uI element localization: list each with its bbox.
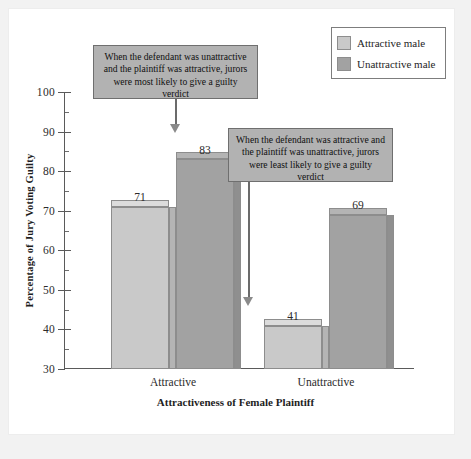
bar-unattractive-attractive-male <box>264 326 322 370</box>
bar-front-face <box>264 326 322 370</box>
bar-side-face <box>387 215 394 369</box>
callout-arrow-stem <box>248 182 250 297</box>
y-tick-80 <box>58 171 65 172</box>
y-tick-inner-70 <box>65 211 71 212</box>
y-tick-inner-50 <box>65 290 71 291</box>
legend-swatch-icon-attractive-male <box>337 36 351 50</box>
y-tick-50 <box>58 290 65 291</box>
callout-box-1: When the defendant was unattractive and … <box>93 45 258 99</box>
legend-swatch-icon-unattractive-male <box>337 57 351 71</box>
bar-value-69: 69 <box>352 199 364 211</box>
legend-label-attractive-male: Attractive male <box>357 37 425 49</box>
y-tick-inner-100 <box>65 92 71 93</box>
bar-unattractive-unattractive-male <box>329 215 387 369</box>
y-tick-inner-60 <box>65 250 71 251</box>
y-tick-label-40: 40 <box>43 323 55 335</box>
y-tick-minor-95 <box>65 112 69 113</box>
bar-front-face <box>176 159 234 369</box>
y-tick-minor-75 <box>65 191 69 192</box>
legend: Attractive male Unattractive male <box>331 27 446 79</box>
chart-figure: Percentage of Jury Voting Guilty 100 90 … <box>0 0 471 459</box>
bar-value-41: 41 <box>287 310 299 322</box>
y-tick-minor-55 <box>65 270 69 271</box>
callout-arrow-2 <box>243 182 254 306</box>
y-tick-label-100: 100 <box>37 86 55 98</box>
y-axis-label-text: Percentage of Jury Voting Guilty <box>25 154 36 308</box>
y-tick-90 <box>58 132 65 133</box>
y-tick-minor-45 <box>65 310 69 311</box>
y-tick-minor-85 <box>65 151 69 152</box>
y-tick-label-60: 60 <box>43 244 55 256</box>
bar-value-71: 71 <box>134 191 146 203</box>
legend-item-unattractive-male: Unattractive male <box>337 53 440 74</box>
bar-front-face <box>329 215 387 369</box>
y-axis-label: Percentage of Jury Voting Guilty <box>22 92 38 369</box>
y-tick-minor-65 <box>65 231 69 232</box>
y-tick-40 <box>58 329 65 330</box>
y-tick-label-30: 30 <box>43 363 55 375</box>
bar-value-83: 83 <box>199 144 211 156</box>
legend-label-unattractive-male: Unattractive male <box>357 58 436 70</box>
callout-arrowhead-icon <box>170 124 180 133</box>
y-tick-inner-80 <box>65 171 71 172</box>
y-tick-inner-40 <box>65 329 71 330</box>
x-tick-label-attractive: Attractive <box>150 376 196 388</box>
legend-item-attractive-male: Attractive male <box>337 32 440 53</box>
y-tick-label-70: 70 <box>43 205 55 217</box>
callout-arrowhead-icon <box>243 297 253 306</box>
y-tick-label-80: 80 <box>43 165 55 177</box>
y-tick-minor-35 <box>65 349 69 350</box>
bar-side-face <box>234 159 241 369</box>
callout-arrow-1 <box>170 99 181 133</box>
callout-arrow-stem <box>175 99 177 124</box>
y-tick-70 <box>58 211 65 212</box>
y-tick-60 <box>58 250 65 251</box>
y-tick-inner-90 <box>65 132 71 133</box>
y-tick-100 <box>58 92 65 93</box>
bar-attractive-attractive-male <box>111 207 169 369</box>
y-tick-label-50: 50 <box>43 284 55 296</box>
y-tick-30 <box>58 369 65 370</box>
x-tick-label-unattractive: Unattractive <box>298 376 355 388</box>
callout-box-2: When the defendant was attractive and th… <box>228 128 393 182</box>
y-tick-label-90: 90 <box>43 126 55 138</box>
bar-side-face <box>322 326 329 370</box>
bar-attractive-unattractive-male <box>176 159 234 369</box>
x-axis-label: Attractiveness of Female Plaintiff <box>0 396 471 408</box>
bar-side-face <box>169 207 176 369</box>
bar-front-face <box>111 207 169 369</box>
